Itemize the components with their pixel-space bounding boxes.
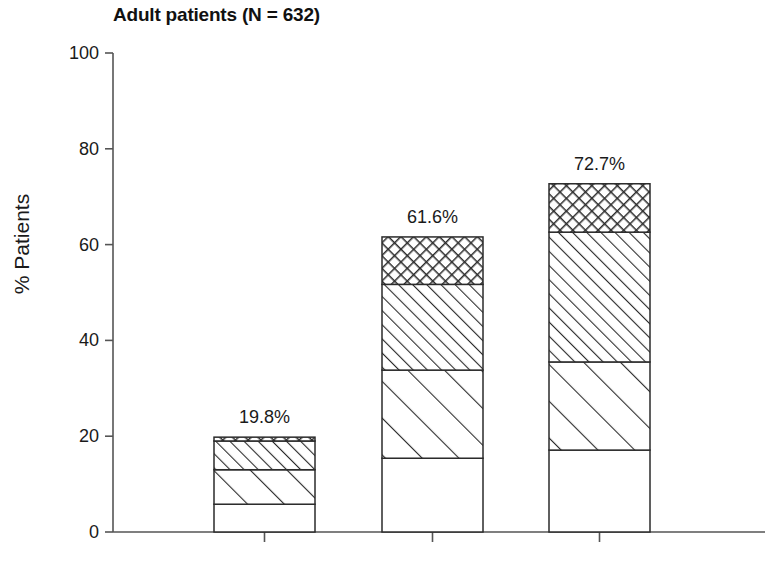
bar-value-label: 72.7% [540, 155, 660, 173]
bar-segment-solid-white [214, 504, 315, 532]
bar-segment-crosshatch [549, 184, 650, 232]
y-axis-tick-label: 0 [41, 523, 99, 541]
y-axis-tick-label: 100 [41, 44, 99, 62]
bars [214, 184, 650, 532]
y-axis-tick-label: 20 [41, 427, 99, 445]
bar-segment-crosshatch [382, 237, 483, 284]
bar-group [549, 184, 650, 532]
y-axis-tick-label: 40 [41, 331, 99, 349]
y-axis-tick-label: 60 [41, 236, 99, 254]
bar-segment-diagonal-narrow [214, 441, 315, 470]
bar-segment-diagonal-wide [214, 470, 315, 504]
bar-segment-crosshatch [214, 437, 315, 441]
bar-segment-solid-white [382, 458, 483, 532]
bar-value-label: 19.8% [205, 408, 325, 426]
plot-area [0, 0, 773, 588]
y-axis-tick-label: 80 [41, 140, 99, 158]
bar-segment-diagonal-wide [549, 362, 650, 450]
bar-segment-diagonal-wide [382, 370, 483, 458]
bar-segment-diagonal-narrow [549, 232, 650, 362]
bar-group [382, 237, 483, 532]
bar-value-label: 61.6% [373, 208, 493, 226]
bar-chart: Adult patients (N = 632) % Patients [0, 0, 773, 588]
bar-segment-solid-white [549, 450, 650, 532]
bar-segment-diagonal-narrow [382, 284, 483, 370]
bar-group [214, 437, 315, 532]
